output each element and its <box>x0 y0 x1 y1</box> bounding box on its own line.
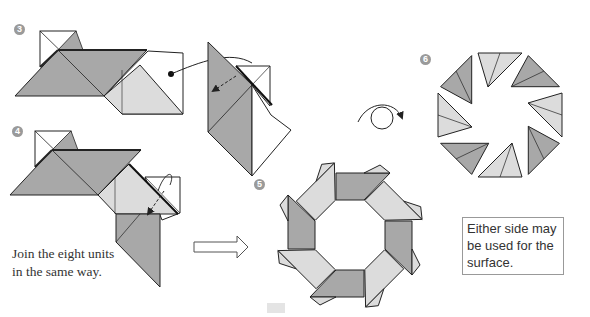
ring-tip <box>310 297 336 305</box>
pinwheel-blade <box>511 56 559 87</box>
step-badge-6: 6 <box>420 54 431 65</box>
join-instruction: Join the eight units in the same way. <box>12 245 114 281</box>
step-5-ring <box>278 163 422 307</box>
ring-tip <box>412 249 420 275</box>
turn-over-icon <box>358 105 402 129</box>
join-instruction-line1: Join the eight units <box>12 245 114 263</box>
pinwheel-blade <box>441 56 472 104</box>
ring-tip <box>280 195 288 221</box>
next-step-arrow-icon <box>194 236 248 258</box>
pinwheel-blade <box>528 126 559 174</box>
either-side-note: Either side may be used for the surface. <box>462 217 564 275</box>
step-6-pinwheel <box>438 53 562 177</box>
step-badge-4: 4 <box>12 126 23 137</box>
ring-tip <box>364 165 390 173</box>
join-instruction-line2: in the same way. <box>12 263 114 281</box>
page-tab-marker <box>267 303 285 313</box>
step-badge-5: 5 <box>254 179 265 190</box>
step-badge-3: 3 <box>14 24 25 35</box>
pinwheel-blade <box>441 143 489 174</box>
